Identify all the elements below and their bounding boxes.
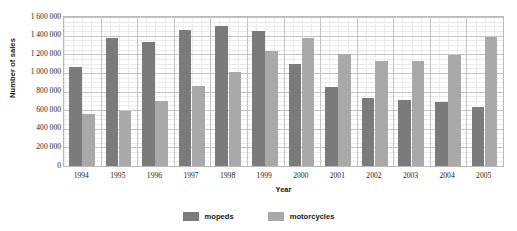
x-axis-tick-label: 1998 <box>209 169 246 182</box>
x-axis-tick-label: 1997 <box>173 169 210 182</box>
bar-mopeds-2000[interactable] <box>289 64 302 166</box>
bar-mopeds-1997[interactable] <box>179 30 192 166</box>
plot-area <box>63 16 504 167</box>
category-separator <box>466 17 467 166</box>
x-axis-tick-label: 1994 <box>63 169 100 182</box>
bar-motorcycles-2000[interactable] <box>302 38 315 166</box>
bar-motorcycles-2003[interactable] <box>412 61 425 166</box>
legend-swatch-icon-motorcycles <box>268 212 284 221</box>
bar-mopeds-1996[interactable] <box>142 42 155 166</box>
category-separator <box>174 17 175 166</box>
x-axis-tick-label: 2005 <box>465 169 502 182</box>
bar-mopeds-1998[interactable] <box>215 26 228 166</box>
x-axis-tick-label: 1996 <box>136 169 173 182</box>
bar-chart: Number of sales 1 600 0001 400 0001 200 … <box>0 0 517 231</box>
y-axis-tick-label: 800 000 <box>18 85 61 96</box>
legend-item-mopeds[interactable]: mopeds <box>183 212 234 221</box>
bar-motorcycles-2001[interactable] <box>338 54 351 166</box>
bar-motorcycles-2004[interactable] <box>448 55 461 166</box>
bar-motorcycles-1996[interactable] <box>155 101 168 166</box>
bar-motorcycles-1997[interactable] <box>192 86 205 166</box>
bar-motorcycles-2005[interactable] <box>485 37 498 166</box>
bar-mopeds-1995[interactable] <box>106 38 119 166</box>
bar-motorcycles-1998[interactable] <box>229 72 242 166</box>
x-axis-tick-label: 2002 <box>356 169 393 182</box>
legend-swatch-icon-mopeds <box>183 212 199 221</box>
bar-motorcycles-2002[interactable] <box>375 61 388 166</box>
y-axis-tick-label: 400 000 <box>18 122 61 133</box>
clipped-chart-title <box>0 0 517 3</box>
y-axis-tick-labels: 1 600 0001 400 0001 200 0001 000 000800 … <box>18 10 61 174</box>
y-axis-tick-label: 600 000 <box>18 104 61 115</box>
x-axis-tick-label: 1995 <box>100 169 137 182</box>
category-separator <box>357 17 358 166</box>
y-axis-tick-label: 1 000 000 <box>18 66 61 77</box>
category-separator <box>247 17 248 166</box>
x-axis-tick-label: 1999 <box>246 169 283 182</box>
y-axis-tick-label: 1 200 000 <box>18 48 61 59</box>
legend-item-motorcycles[interactable]: motorcycles <box>268 212 335 221</box>
bar-motorcycles-1999[interactable] <box>265 51 278 166</box>
bar-mopeds-2002[interactable] <box>362 98 375 166</box>
x-axis-tick-label: 2003 <box>392 169 429 182</box>
bar-mopeds-1994[interactable] <box>69 67 82 166</box>
bar-mopeds-1999[interactable] <box>252 31 265 166</box>
x-axis-tick-label: 2004 <box>429 169 466 182</box>
category-separator <box>320 17 321 166</box>
legend-label-mopeds: mopeds <box>205 212 234 221</box>
bar-mopeds-2005[interactable] <box>472 107 485 166</box>
x-axis-tick-label: 2001 <box>319 169 356 182</box>
plot-inner <box>64 17 503 166</box>
category-separator <box>284 17 285 166</box>
y-axis-tick-label: 1 600 000 <box>18 11 61 22</box>
x-axis-title: Year <box>63 185 504 197</box>
category-separator <box>210 17 211 166</box>
category-separator <box>393 17 394 166</box>
y-axis-tick-label: 0 <box>18 160 61 171</box>
bar-mopeds-2001[interactable] <box>325 87 338 166</box>
category-separator <box>137 17 138 166</box>
bar-mopeds-2003[interactable] <box>398 100 411 166</box>
x-axis-tick-labels: 1994199519961997199819992000200120022003… <box>63 169 504 182</box>
x-axis-tick-label: 2000 <box>283 169 320 182</box>
category-separator <box>430 17 431 166</box>
category-separator <box>101 17 102 166</box>
bar-motorcycles-1994[interactable] <box>82 114 95 166</box>
chart-legend: mopeds motorcycles <box>0 209 517 223</box>
y-axis-tick-label: 1 400 000 <box>18 29 61 40</box>
legend-label-motorcycles: motorcycles <box>290 212 335 221</box>
bar-motorcycles-1995[interactable] <box>119 111 132 166</box>
y-axis-tick-label: 200 000 <box>18 141 61 152</box>
bar-mopeds-2004[interactable] <box>435 102 448 166</box>
